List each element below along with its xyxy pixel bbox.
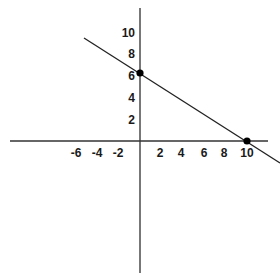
x-tick-label: -4 <box>92 146 103 160</box>
x-tick-label: 8 <box>221 146 228 160</box>
x-tick-label: 10 <box>240 146 254 160</box>
point-y-intercept <box>136 69 143 76</box>
x-tick-label: 2 <box>157 146 164 160</box>
x-tick-label: -2 <box>113 146 124 160</box>
point-x-intercept <box>243 137 250 144</box>
y-tick-label: 10 <box>122 26 136 40</box>
plotted-line <box>84 38 280 163</box>
x-tick-label: -6 <box>71 146 82 160</box>
y-tick-label: 8 <box>128 47 135 61</box>
y-tick-label: 4 <box>128 91 135 105</box>
y-tick-label: 6 <box>128 69 135 83</box>
coordinate-plane: -6 -4 -2 2 4 6 8 10 10 8 6 4 2 <box>0 0 280 274</box>
x-tick-label: 6 <box>201 146 208 160</box>
y-tick-label: 2 <box>128 113 135 127</box>
x-tick-label: 4 <box>178 146 185 160</box>
